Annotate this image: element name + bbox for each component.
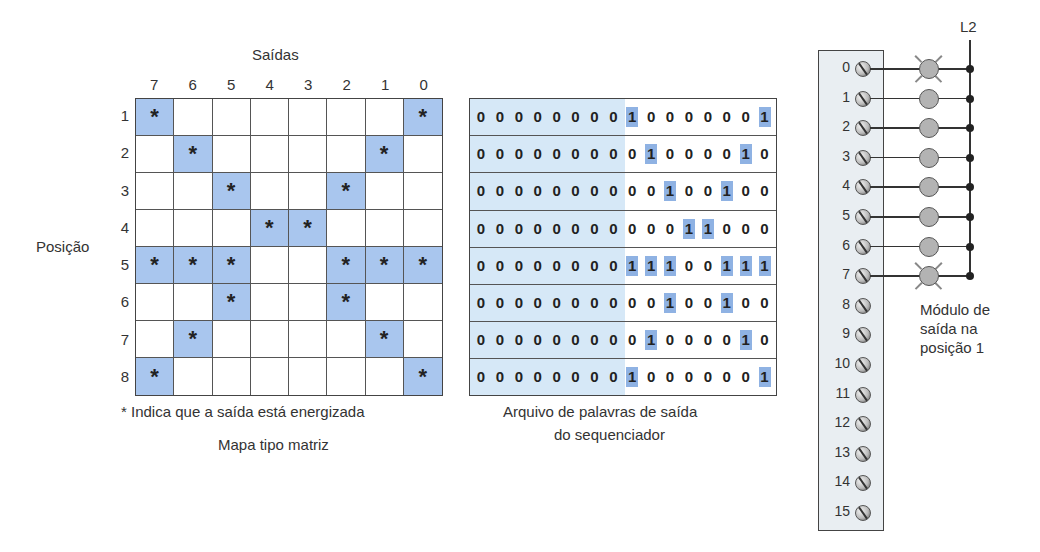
matrix-cell: [213, 210, 251, 247]
bit-zero: 0: [570, 181, 582, 201]
bit-one: 1: [626, 107, 638, 127]
matrix-cell: [213, 99, 251, 136]
bit-zero: 0: [551, 181, 563, 201]
matrix-cell: [213, 358, 251, 395]
matrix-cell-energized: *: [404, 247, 442, 284]
matrix-cell: [327, 358, 365, 395]
matrix-cell-energized: *: [327, 247, 365, 284]
bit-zero: 0: [702, 107, 714, 127]
bit-zero: 0: [494, 144, 506, 164]
bit-zero: 0: [702, 144, 714, 164]
bit-zero: 0: [607, 367, 619, 387]
bit-zero: 0: [721, 107, 733, 127]
terminal-number: 12: [820, 414, 850, 430]
bit-zero: 0: [494, 293, 506, 313]
bit-zero: 0: [588, 107, 600, 127]
bit-zero: 0: [513, 256, 525, 276]
matrix-cell-energized: *: [136, 247, 174, 284]
matrix-cell: [366, 358, 404, 395]
matrix-cell: [289, 358, 327, 395]
terminal-screw-icon: [855, 475, 871, 491]
bit-zero: 0: [588, 219, 600, 239]
bit-zero: 0: [475, 144, 487, 164]
terminal-screw-icon: [855, 387, 871, 403]
bit-one: 1: [759, 367, 771, 387]
word-row: 0000000010000001: [470, 99, 776, 136]
matrix-column-header: 0: [405, 76, 444, 93]
matrix-cell: [404, 173, 442, 210]
bit-zero: 0: [664, 219, 676, 239]
bit-zero: 0: [702, 330, 714, 350]
matrix-cell: [136, 136, 174, 173]
bit-zero: 0: [645, 219, 657, 239]
bit-zero: 0: [570, 330, 582, 350]
bit-zero: 0: [513, 144, 525, 164]
bit-zero: 0: [475, 330, 487, 350]
matrix-cell: [251, 284, 289, 321]
bit-zero: 0: [607, 144, 619, 164]
matrix-cell: [366, 210, 404, 247]
bit-zero: 0: [721, 144, 733, 164]
terminal-screw-icon: [855, 179, 871, 195]
matrix-cell: [251, 99, 289, 136]
matrix-cell-energized: *: [404, 99, 442, 136]
bit-zero: 0: [494, 256, 506, 276]
bit-zero: 0: [475, 107, 487, 127]
terminal-screw-icon: [855, 239, 871, 255]
terminal-screw-icon: [855, 416, 871, 432]
matrix-row-header: 8: [113, 368, 129, 385]
junction-dot-icon: [966, 272, 974, 280]
matrix-cell: [251, 136, 289, 173]
matrix-cell: [327, 99, 365, 136]
bit-zero: 0: [607, 181, 619, 201]
matrix-cell-energized: *: [366, 321, 404, 358]
terminal-screw-icon: [855, 327, 871, 343]
matrix-cell-energized: *: [289, 210, 327, 247]
matrix-row-header: 5: [113, 256, 129, 273]
sequencer-word-file: 0000000010000001000000000100001000000000…: [469, 98, 777, 396]
bit-zero: 0: [645, 367, 657, 387]
terminal-screw-icon: [855, 61, 871, 77]
matrix-cell: [251, 321, 289, 358]
bit-zero: 0: [607, 293, 619, 313]
terminal-screw-icon: [855, 91, 871, 107]
matrix-cell-energized: *: [136, 99, 174, 136]
matrix-cell-energized: *: [366, 247, 404, 284]
word-row: 0000000000100100: [470, 285, 776, 322]
bit-one: 1: [740, 256, 752, 276]
l2-line-label: L2: [960, 18, 977, 35]
bit-zero: 0: [532, 181, 544, 201]
matrix-cell: [404, 210, 442, 247]
lamp-off-icon: [919, 237, 939, 257]
matrix-cell-energized: *: [366, 136, 404, 173]
junction-dot-icon: [966, 154, 974, 162]
matrix-cell-energized: *: [213, 284, 251, 321]
matrix-column-header: 5: [212, 76, 251, 93]
bit-zero: 0: [683, 293, 695, 313]
terminal-number: 1: [820, 89, 850, 105]
matrix-cell: [404, 321, 442, 358]
module-caption-line2: saída na: [920, 320, 978, 337]
bit-zero: 0: [588, 256, 600, 276]
matrix-cell: [251, 358, 289, 395]
matrix-cell-energized: *: [404, 358, 442, 395]
terminal-screw-icon: [855, 446, 871, 462]
matrix-column-header: 4: [251, 76, 290, 93]
matrix-cell-energized: *: [327, 173, 365, 210]
bit-zero: 0: [702, 181, 714, 201]
terminal-number: 5: [820, 207, 850, 223]
word-row: 0000000001000010: [470, 322, 776, 359]
terminal-number: 0: [820, 59, 850, 75]
matrix-row-header: 7: [113, 331, 129, 348]
matrix-row-header: 1: [113, 107, 129, 124]
matrix-row-header: 3: [113, 182, 129, 199]
terminal-screw-icon: [855, 298, 871, 314]
terminal-screw-icon: [855, 357, 871, 373]
matrix-cell: [404, 284, 442, 321]
word-row: 0000000010000001: [470, 359, 776, 396]
matrix-cell: [136, 321, 174, 358]
bit-zero: 0: [740, 107, 752, 127]
module-caption-line3: posição 1: [920, 339, 984, 356]
bit-zero: 0: [588, 144, 600, 164]
matrix-cell-energized: *: [174, 136, 212, 173]
